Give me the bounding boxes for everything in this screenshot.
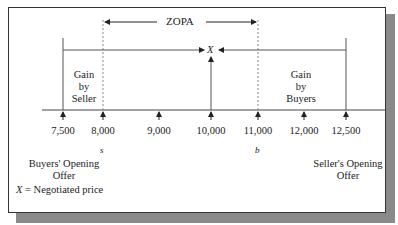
sellers-opening-offer-label: Seller's Opening Offer — [310, 158, 386, 182]
gain-by-buyers-label: Gain by Buyers — [284, 69, 318, 105]
tick-label: 11,000 — [244, 125, 273, 136]
s-label: s — [100, 144, 104, 156]
gain-by-seller-label: Gain by Seller — [70, 69, 98, 105]
tick-label: 7,500 — [51, 125, 75, 136]
tick-arrows — [63, 112, 346, 120]
b-label: b — [255, 144, 260, 156]
negotiated-price-marker: X — [207, 44, 213, 56]
buyers-opening-offer-label: Buyers' Opening Offer — [26, 158, 102, 182]
legend: X = Negotiated price — [16, 184, 103, 196]
tick-label: 8,000 — [91, 125, 115, 136]
tick-label: 9,000 — [147, 125, 171, 136]
tick-label: 12,000 — [290, 125, 319, 136]
legend-text: = Negotiated price — [22, 184, 103, 195]
zopa-label: ZOPA — [166, 15, 194, 27]
tick-label: 10,000 — [197, 125, 226, 136]
tick-label: 12,500 — [332, 125, 361, 136]
